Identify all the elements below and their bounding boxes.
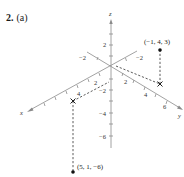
z-axis-arrow-icon [109,19,112,24]
y-axis [87,52,180,108]
point-b-dot [71,170,75,174]
y-tick-neg2: −2 [79,54,86,61]
y-tick-2: 2 [124,78,127,85]
z-axis-label: z [108,10,112,17]
x-axis-label: x [19,109,23,116]
x-axis-ticks [44,58,127,106]
x-tick-4: 4 [77,90,81,97]
y-axis-label: y [177,112,181,119]
point-a-label: (−1, 4, 3) [144,38,171,46]
3d-coordinate-diagram: z 2 −2 −4 −6 x −2 2 4 y −2 [0,0,184,177]
x-tick-2: 2 [94,79,97,86]
y-axis-arrow-icon [177,106,183,111]
z-tick-neg4: −4 [99,110,107,117]
z-tick-2: 2 [103,41,106,48]
point-b-label: (5, 1, −6) [77,163,104,171]
x-tick-neg2: −2 [136,54,143,61]
y-tick-4: 4 [144,91,148,98]
z-tick-neg2: −2 [99,87,106,94]
point-a-dot [158,48,162,52]
z-tick-neg6: −6 [99,133,107,140]
